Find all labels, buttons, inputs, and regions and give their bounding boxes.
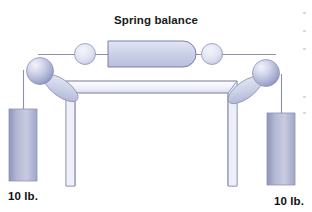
left-cord-ring (75, 44, 96, 65)
figure-background (0, 0, 312, 212)
left-weight-block (9, 109, 37, 181)
page-title: Spring balance (114, 14, 198, 26)
scan-artifact (303, 48, 306, 50)
left-pulley-sphere (27, 58, 54, 85)
right-weight-label: 10 lb. (274, 195, 304, 207)
apparatus-diagram: Spring balance (0, 0, 312, 212)
left-weight-label: 10 lb. (8, 190, 38, 202)
spring-balance-figure: Spring balance (0, 0, 312, 212)
right-pulley-sphere (253, 60, 280, 87)
scan-artifact (303, 96, 306, 98)
right-weight-block (267, 113, 295, 185)
spring-balance-bar (108, 41, 196, 67)
scan-artifact (303, 30, 306, 32)
scan-artifact (303, 12, 306, 14)
stand-top-plate (66, 81, 237, 93)
right-cord-ring (202, 44, 223, 65)
scan-artifact (303, 112, 306, 114)
